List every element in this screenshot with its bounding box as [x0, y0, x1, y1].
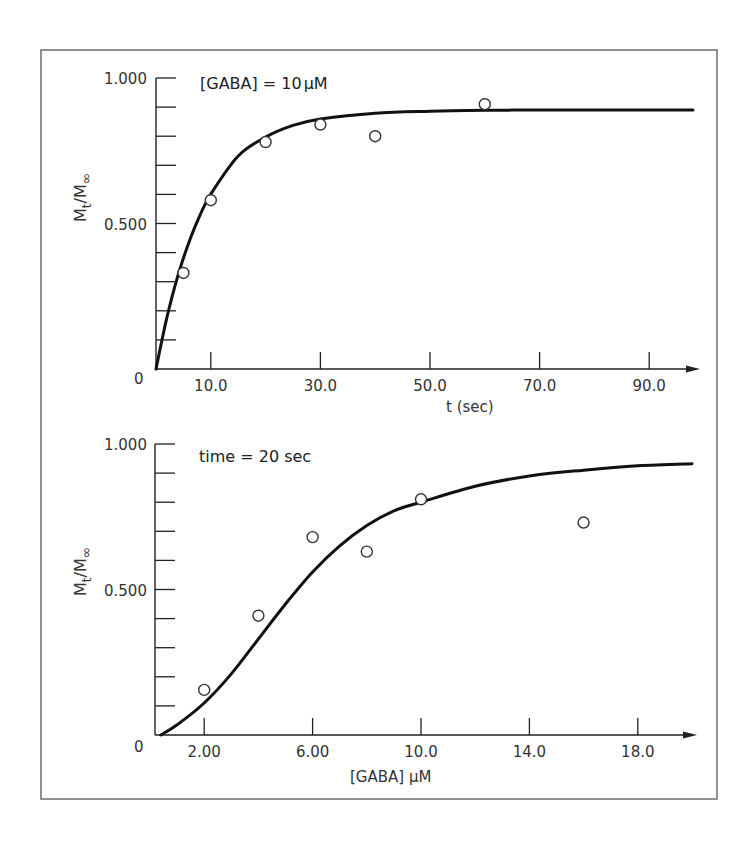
top-y-axis-title: Mt/M∞	[71, 173, 94, 222]
top-x-tick-label: 90.0	[632, 377, 665, 395]
bottom-x-tick-label: 18.0	[621, 743, 654, 761]
top-x-tick-label: 10.0	[194, 377, 227, 395]
bottom-x-tick-label: 10.0	[404, 743, 437, 761]
bottom-x-axis-arrow-icon	[683, 732, 697, 739]
figure: 10.030.050.070.090.0 1.000 0.500 0 [GABA…	[0, 0, 750, 845]
bottom-origin-label: 0	[134, 738, 144, 756]
top-origin-label: 0	[134, 370, 144, 388]
top-y-label-1000: 1.000	[104, 70, 147, 88]
top-x-tick-label: 30.0	[304, 377, 337, 395]
bottom-data-point	[253, 610, 264, 621]
top-y-label-0500: 0.500	[104, 216, 147, 234]
bottom-x-tick-labels: 2.006.0010.014.018.0	[187, 743, 654, 761]
bottom-x-tick-label: 6.00	[296, 743, 329, 761]
bottom-data-point	[578, 517, 589, 528]
top-data-point	[479, 99, 490, 110]
bottom-y-label-1000: 1.000	[104, 436, 147, 454]
top-annotation: [GABA] = 10µM	[200, 74, 328, 93]
bottom-annotation: time = 20 sec	[199, 447, 311, 466]
bottom-y-axis-title: Mt/M∞	[71, 547, 94, 596]
svg-text:Mt/M∞: Mt/M∞	[71, 547, 94, 596]
bottom-data-point	[361, 546, 372, 557]
top-x-axis-arrow-icon	[686, 366, 700, 373]
bottom-fit-curve	[161, 464, 692, 735]
top-fit-curve	[156, 110, 693, 369]
bottom-data-point	[307, 532, 318, 543]
bottom-panel: 2.006.0010.014.018.0 1.000 0.500 0 time …	[71, 436, 697, 786]
top-x-tick-labels: 10.030.050.070.090.0	[194, 377, 666, 395]
bottom-x-tick-label: 2.00	[187, 743, 220, 761]
bottom-axes	[155, 444, 697, 739]
bottom-data-points	[199, 494, 589, 696]
bottom-data-point	[199, 684, 210, 695]
bottom-x-axis-title: [GABA] µM	[350, 768, 431, 786]
top-data-point	[205, 195, 216, 206]
top-data-point	[260, 137, 271, 148]
top-data-points	[178, 99, 490, 279]
top-panel: 10.030.050.070.090.0 1.000 0.500 0 [GABA…	[71, 70, 700, 416]
top-x-tick-label: 50.0	[413, 377, 446, 395]
top-x-axis-title: t (sec)	[446, 398, 494, 416]
top-data-point	[178, 267, 189, 278]
top-data-point	[315, 119, 326, 130]
figure-frame	[41, 50, 717, 799]
top-x-tick-label: 70.0	[523, 377, 556, 395]
svg-text:Mt/M∞: Mt/M∞	[71, 173, 94, 222]
bottom-data-point	[416, 494, 427, 505]
bottom-y-label-0500: 0.500	[104, 582, 147, 600]
bottom-x-tick-label: 14.0	[513, 743, 546, 761]
top-axes	[156, 78, 700, 373]
top-data-point	[370, 131, 381, 142]
